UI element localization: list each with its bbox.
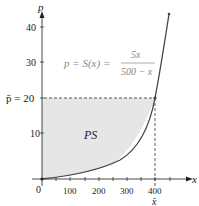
ps-region-label: PS [83, 128, 97, 142]
x-axis-label: x [191, 173, 197, 185]
equation-denominator: 500 − x [121, 66, 153, 77]
x-tick-label-0: 0 [36, 184, 41, 195]
y-tick-label-30: 30 [26, 57, 36, 68]
equation-lhs: p = S(x) = [63, 57, 110, 70]
equilibrium-point [153, 96, 156, 99]
equation-numerator: 5x [131, 49, 141, 60]
curve-end-point [168, 13, 171, 16]
x-tick-label-400: 400 [148, 186, 162, 196]
x-bar-label: x̄ [151, 196, 157, 206]
x-tick-label-200: 200 [92, 186, 106, 196]
p-bar-label: p̄ = 20 [6, 92, 35, 104]
producer-surplus-region [42, 98, 155, 179]
x-tick-label-100: 100 [63, 186, 77, 196]
y-axis-label: p [37, 1, 44, 13]
y-tick-label-40: 40 [26, 22, 36, 33]
origin-point [40, 177, 43, 180]
chart: p 40 30 p̄ = 20 10 0 100 200 300 400 x̄ … [0, 0, 199, 206]
x-tick-label-300: 300 [120, 186, 134, 196]
y-tick-label-10: 10 [30, 128, 40, 139]
